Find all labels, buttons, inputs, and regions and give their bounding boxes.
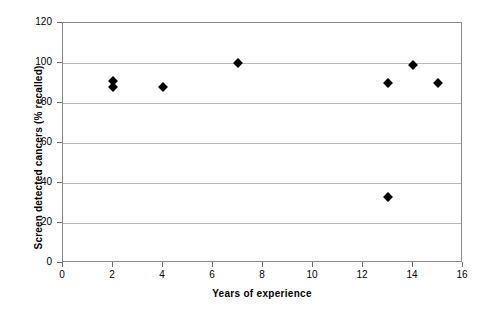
scatter-chart-figure: Screen detected cancers (% recalled) Yea… [0,0,480,310]
x-tick-label-16: 16 [442,269,480,280]
y-tick-mark-20 [57,222,62,223]
x-tick-mark-8 [262,262,263,267]
y-tick-label-80: 80 [0,97,52,107]
x-tick-mark-0 [62,262,63,267]
x-tick-mark-4 [162,262,163,267]
y-tick-label-20: 20 [0,217,52,227]
x-tick-mark-10 [312,262,313,267]
y-tick-label-100: 100 [0,57,52,67]
x-tick-label-10: 10 [292,269,332,280]
x-tick-mark-2 [112,262,113,267]
data-point [233,58,243,68]
x-tick-label-12: 12 [342,269,382,280]
x-tick-label-14: 14 [392,269,432,280]
x-tick-label-0: 0 [42,269,82,280]
data-point [108,82,118,92]
y-tick-mark-120 [57,22,62,23]
gridline-y-40 [63,183,461,184]
data-point [408,60,418,70]
y-tick-mark-60 [57,142,62,143]
y-tick-label-0: 0 [0,257,52,267]
data-point [433,78,443,88]
x-tick-label-4: 4 [142,269,182,280]
y-axis-label: Screen detected cancers (% recalled) [33,38,44,278]
x-tick-label-2: 2 [92,269,132,280]
y-tick-label-60: 60 [0,137,52,147]
x-tick-label-6: 6 [192,269,232,280]
x-tick-mark-14 [412,262,413,267]
x-tick-mark-16 [462,262,463,267]
x-tick-mark-6 [212,262,213,267]
gridline-y-60 [63,143,461,144]
data-point [383,78,393,88]
plot-area [62,22,462,262]
y-tick-mark-100 [57,62,62,63]
gridline-y-20 [63,223,461,224]
y-tick-label-40: 40 [0,177,52,187]
gridline-y-100 [63,63,461,64]
x-axis-label: Years of experience [62,288,462,299]
y-tick-label-120: 120 [0,17,52,27]
data-point [383,192,393,202]
x-tick-label-8: 8 [242,269,282,280]
y-tick-mark-40 [57,182,62,183]
y-tick-mark-80 [57,102,62,103]
data-point [158,82,168,92]
gridline-y-80 [63,103,461,104]
x-tick-mark-12 [362,262,363,267]
